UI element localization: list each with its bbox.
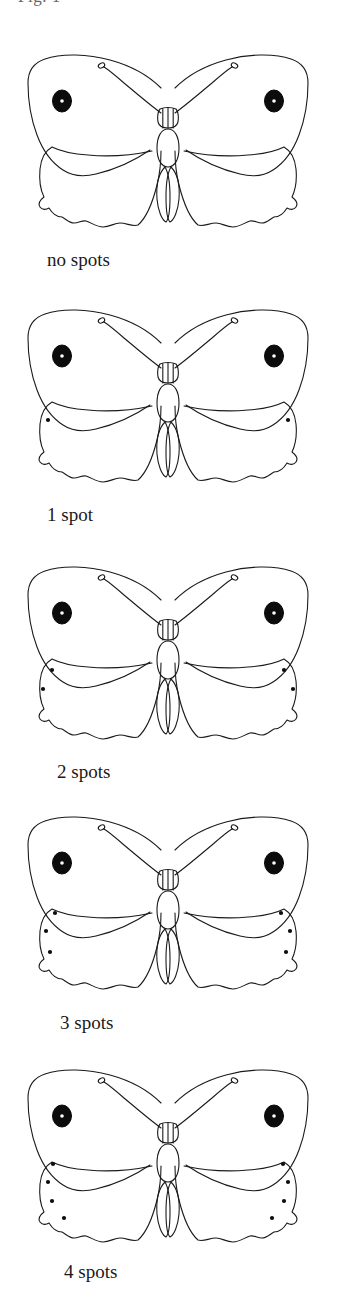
antenna-left <box>104 829 161 875</box>
thorax <box>157 384 179 422</box>
antenna-left <box>104 1082 161 1128</box>
forewing-right <box>175 1070 308 1191</box>
butterfly-drawing <box>0 795 337 1010</box>
hindwing-spot-right-2 <box>288 929 292 933</box>
hindwing-spot-right-2 <box>286 1180 290 1184</box>
specimen-figure-butterfly-4-spots <box>0 1048 337 1263</box>
hindwing-spot-right-2 <box>291 687 295 691</box>
antenna-left <box>104 579 161 625</box>
thorax <box>157 129 179 167</box>
antenna-club-right <box>230 317 238 324</box>
forewing-eyespot-pupil-right <box>272 354 276 358</box>
antenna-right <box>175 322 232 368</box>
antenna-right <box>175 579 232 625</box>
forewing-eyespot-pupil-left <box>60 1114 64 1118</box>
hindwing-spot-right-1 <box>279 911 283 915</box>
hindwing-spot-right-3 <box>282 1199 286 1203</box>
hindwing-left <box>39 147 161 227</box>
hindwing-spot-right-1 <box>282 668 286 672</box>
specimen-figure-butterfly-2-spots <box>0 545 337 760</box>
hindwing-left <box>39 909 161 989</box>
antenna-club-left <box>97 62 105 69</box>
antenna-left <box>104 67 161 113</box>
forewing-left <box>28 310 161 431</box>
forewing-left <box>28 1070 161 1191</box>
forewing-left <box>28 817 161 938</box>
antenna-club-left <box>97 574 105 581</box>
specimen-label-butterfly-no-spots: no spots <box>47 250 110 269</box>
specimen-label-butterfly-2-spots: 2 spots <box>57 762 110 781</box>
antenna-club-right <box>230 1077 238 1084</box>
hindwing-right <box>175 402 297 482</box>
antenna-club-right <box>230 824 238 831</box>
hindwing-right <box>175 659 297 739</box>
butterfly-drawing <box>0 288 337 503</box>
specimen-label-butterfly-3-spots: 3 spots <box>60 1013 113 1032</box>
hindwing-spot-left-1 <box>50 668 54 672</box>
hindwing-right <box>175 147 297 227</box>
forewing-right <box>175 567 308 688</box>
hindwing-spot-left-2 <box>41 687 45 691</box>
forewing-right <box>175 817 308 938</box>
forewing-left <box>28 567 161 688</box>
hindwing-spot-left-1 <box>46 418 50 422</box>
antenna-right <box>175 1082 232 1128</box>
specimen-label-butterfly-1-spot: 1 spot <box>47 505 93 524</box>
hindwing-spot-right-1 <box>286 418 290 422</box>
antenna-club-left <box>97 824 105 831</box>
hindwing-left <box>39 1162 161 1242</box>
forewing-right <box>175 55 308 176</box>
thorax <box>157 1144 179 1182</box>
forewing-eyespot-pupil-left <box>60 861 64 865</box>
forewing-left <box>28 55 161 176</box>
hindwing-left <box>39 659 161 739</box>
hindwing-spot-left-2 <box>46 1180 50 1184</box>
hindwing-right <box>175 1162 297 1242</box>
hindwing-spot-right-4 <box>270 1216 274 1220</box>
forewing-eyespot-pupil-right <box>272 1114 276 1118</box>
forewing-right <box>175 310 308 431</box>
forewing-eyespot-pupil-right <box>272 99 276 103</box>
antenna-right <box>175 829 232 875</box>
hindwing-spot-left-1 <box>53 911 57 915</box>
forewing-eyespot-pupil-right <box>272 861 276 865</box>
forewing-eyespot-pupil-left <box>60 354 64 358</box>
forewing-eyespot-pupil-left <box>60 99 64 103</box>
specimen-figure-butterfly-1-spot <box>0 288 337 503</box>
antenna-left <box>104 322 161 368</box>
forewing-eyespot-pupil-right <box>272 611 276 615</box>
butterfly-drawing <box>0 545 337 760</box>
butterfly-drawing <box>0 33 337 248</box>
antenna-club-left <box>97 1077 105 1084</box>
specimen-figure-butterfly-3-spots <box>0 795 337 1010</box>
butterfly-drawing <box>0 1048 337 1263</box>
specimen-figure-butterfly-no-spots <box>0 33 337 248</box>
specimen-label-butterfly-4-spots: 4 spots <box>64 1262 117 1281</box>
hindwing-left <box>39 402 161 482</box>
thorax <box>157 891 179 929</box>
antenna-club-left <box>97 317 105 324</box>
hindwing-spot-left-3 <box>50 1199 54 1203</box>
hindwing-spot-right-1 <box>281 1162 285 1166</box>
thorax <box>157 641 179 679</box>
butterfly-figure-column: no spots1 spot2 spots3 spots4 spots <box>0 0 337 1294</box>
hindwing-spot-left-2 <box>44 929 48 933</box>
hindwing-spot-left-3 <box>48 950 52 954</box>
forewing-eyespot-pupil-left <box>60 611 64 615</box>
antenna-right <box>175 67 232 113</box>
hindwing-right <box>175 909 297 989</box>
antenna-club-right <box>230 62 238 69</box>
hindwing-spot-left-1 <box>51 1162 55 1166</box>
hindwing-spot-right-3 <box>284 950 288 954</box>
hindwing-spot-left-4 <box>62 1216 66 1220</box>
antenna-club-right <box>230 574 238 581</box>
